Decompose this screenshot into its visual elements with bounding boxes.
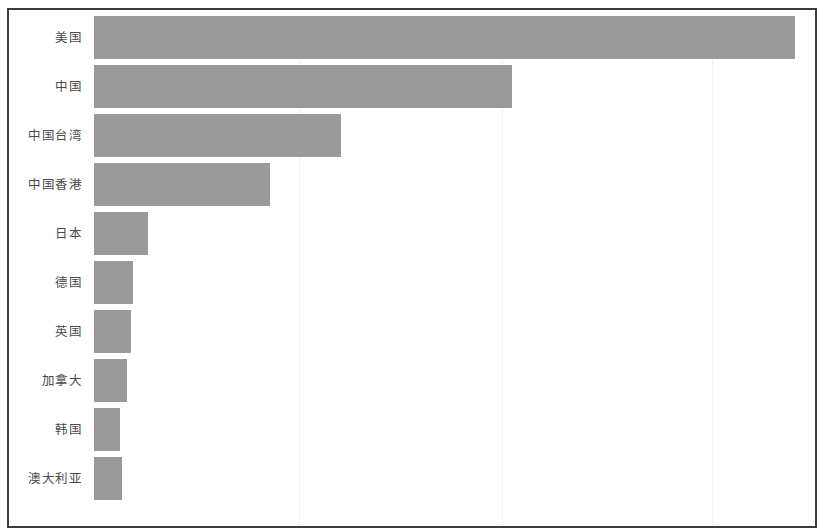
bar-row: 加拿大 xyxy=(0,359,809,402)
bar-row: 中国 xyxy=(0,65,809,108)
bar-track xyxy=(94,359,127,402)
category-label: 韩国 xyxy=(4,408,82,451)
category-label: 德国 xyxy=(4,261,82,304)
bar-track xyxy=(94,457,122,500)
category-label: 中国香港 xyxy=(4,163,82,206)
bar[interactable] xyxy=(94,457,122,500)
bar[interactable] xyxy=(94,359,127,402)
category-label: 中国台湾 xyxy=(4,114,82,157)
bar-row: 澳大利亚 xyxy=(0,457,809,500)
bar[interactable] xyxy=(94,16,795,59)
bar-row: 中国台湾 xyxy=(0,114,809,157)
bar[interactable] xyxy=(94,114,341,157)
category-label: 日本 xyxy=(4,212,82,255)
bar[interactable] xyxy=(94,408,120,451)
bar[interactable] xyxy=(94,310,131,353)
bar[interactable] xyxy=(94,261,133,304)
bar-row: 韩国 xyxy=(0,408,809,451)
bar-track xyxy=(94,65,512,108)
bar[interactable] xyxy=(94,65,512,108)
bar-track xyxy=(94,212,148,255)
category-label: 加拿大 xyxy=(4,359,82,402)
bar-row: 英国 xyxy=(0,310,809,353)
category-label: 英国 xyxy=(4,310,82,353)
bar[interactable] xyxy=(94,163,270,206)
bar-row: 美国 xyxy=(0,16,809,59)
bar-row: 日本 xyxy=(0,212,809,255)
bar-track xyxy=(94,114,341,157)
bar-track xyxy=(94,16,795,59)
bar-row: 德国 xyxy=(0,261,809,304)
bar-track xyxy=(94,261,133,304)
category-label: 美国 xyxy=(4,16,82,59)
bar-track xyxy=(94,163,270,206)
bar-track xyxy=(94,310,131,353)
bar-track xyxy=(94,408,120,451)
category-label: 中国 xyxy=(4,65,82,108)
category-label: 澳大利亚 xyxy=(4,457,82,500)
bar-row: 中国香港 xyxy=(0,163,809,206)
bar[interactable] xyxy=(94,212,148,255)
